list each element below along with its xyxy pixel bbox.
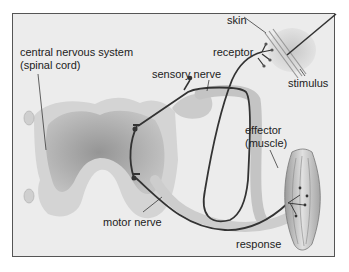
label-effector: effector [245,124,282,137]
spinal-cord [24,94,212,219]
leader-effector [270,150,278,168]
label-skin: skin [227,14,247,27]
label-response: response [236,238,281,251]
label-motor-nerve: motor nerve [103,216,162,229]
label-receptor: receptor [213,46,253,59]
label-sensory-nerve: sensory nerve [152,68,221,81]
label-spinal-cord: (spinal cord) [20,59,81,72]
reflex-arc-illustration [0,0,349,272]
synapse-dot [132,176,137,181]
leader-skin [244,17,266,33]
label-cns: central nervous system [20,46,133,59]
synapse-dot [133,127,138,132]
skin-receptor [258,28,316,78]
muscle-effector [285,149,321,250]
label-stimulus: stimulus [288,77,328,90]
label-muscle: (muscle) [245,137,287,150]
